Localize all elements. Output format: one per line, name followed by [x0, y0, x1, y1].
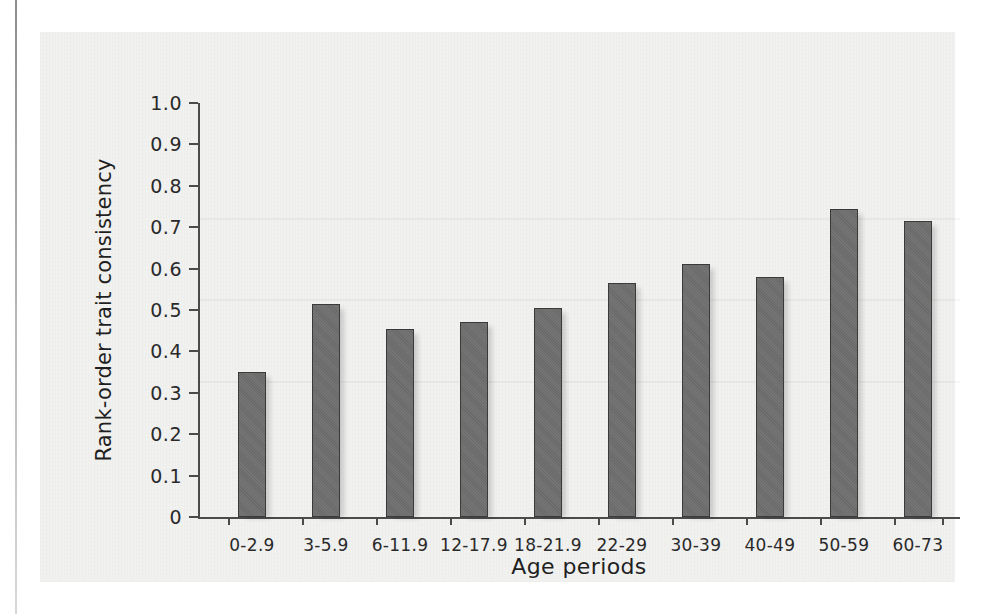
y-axis-tick: 0.8	[189, 185, 198, 187]
y-axis-tick-label: 0.5	[150, 299, 182, 321]
x-axis-tick	[450, 517, 452, 525]
x-axis-tick	[598, 517, 600, 525]
bar	[608, 283, 636, 517]
x-axis-tick	[672, 517, 674, 525]
plot-area: 1.00.90.80.70.60.50.40.30.20.10 0-2.93-5…	[198, 103, 960, 517]
y-axis-tick: 0	[189, 516, 198, 518]
x-axis-tick	[942, 517, 944, 525]
x-axis-tick	[376, 517, 378, 525]
bar	[460, 322, 488, 517]
bar	[312, 304, 340, 517]
y-axis-tick: 0.4	[189, 350, 198, 352]
y-axis-tick-label: 0	[169, 506, 182, 528]
x-axis-tick	[746, 517, 748, 525]
x-axis-title: Age periods	[198, 554, 960, 579]
y-axis-line	[198, 103, 200, 517]
bar	[534, 308, 562, 517]
x-axis-tick	[228, 517, 230, 525]
y-axis-tick: 0.2	[189, 433, 198, 435]
x-axis-tick	[524, 517, 526, 525]
x-axis-tick	[894, 517, 896, 525]
y-axis-tick-label: 0.6	[150, 257, 182, 279]
bar	[238, 372, 266, 517]
bar	[682, 264, 710, 517]
y-axis-tick: 0.3	[189, 392, 198, 394]
y-axis-tick-label: 0.4	[150, 340, 182, 362]
figure-panel: Rank-order trait consistency 1.00.90.80.…	[40, 32, 955, 582]
page-gutter-line	[15, 0, 17, 614]
x-axis-line	[198, 517, 960, 519]
bar	[756, 277, 784, 517]
bar	[830, 209, 858, 517]
x-axis-tick-label: 60-73	[858, 535, 978, 555]
y-axis-tick: 0.5	[189, 309, 198, 311]
y-axis-tick-label: 0.1	[150, 464, 182, 486]
y-axis-title: Rank-order trait consistency	[92, 103, 122, 517]
y-axis-tick-label: 0.9	[150, 133, 182, 155]
x-axis-tick	[820, 517, 822, 525]
y-axis-tick: 1.0	[189, 102, 198, 104]
y-axis-tick: 0.6	[189, 268, 198, 270]
y-axis-tick: 0.9	[189, 143, 198, 145]
bar	[904, 221, 932, 517]
y-axis-tick-label: 0.2	[150, 423, 182, 445]
x-axis-tick	[302, 517, 304, 525]
bar	[386, 329, 414, 517]
y-axis-tick: 0.1	[189, 475, 198, 477]
y-axis-tick-label: 1.0	[150, 92, 182, 114]
y-axis-tick-label: 0.3	[150, 381, 182, 403]
y-axis-tick-label: 0.7	[150, 216, 182, 238]
y-axis-tick-label: 0.8	[150, 174, 182, 196]
y-axis-tick: 0.7	[189, 226, 198, 228]
